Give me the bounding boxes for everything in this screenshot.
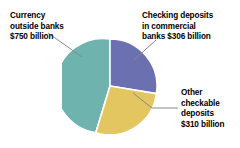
pie-chart-figure: Currency outside banks $750 billion Chec… [0,0,240,148]
label-currency-outside-banks: Currency outside banks $750 billion [10,11,64,43]
label-checking-line2: in commercial [142,22,213,33]
pie-chart [62,38,158,134]
label-currency-line1: Currency [10,11,64,22]
label-other-line2: checkable [181,99,224,110]
pie-chart-svg [62,38,158,134]
label-other-checkable-deposits: Other checkable deposits $310 billion [181,88,224,130]
label-other-line3: deposits [181,109,224,120]
label-other-line4: $310 billion [181,120,224,131]
label-other-line1: Other [181,88,224,99]
label-currency-line3: $750 billion [10,32,64,43]
label-checking-line1: Checking deposits [142,11,213,22]
label-currency-line2: outside banks [10,22,64,33]
label-checking-line3: banks $306 billion [142,32,213,43]
label-checking-deposits: Checking deposits in commercial banks $3… [142,11,213,43]
pie-slice-checking-deposits[interactable] [110,39,157,94]
